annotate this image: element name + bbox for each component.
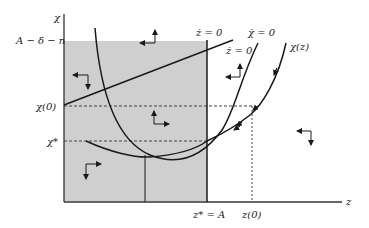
phase-arrow-right-top bbox=[226, 64, 240, 77]
phase-arrow-far-right bbox=[297, 131, 311, 145]
x-tick-z0: z(0) bbox=[241, 209, 262, 220]
phase-diagram: χ z A − δ − n χ(0) χ* z* = A z(0) ż = 0 … bbox=[0, 0, 369, 228]
y-axis-label: χ bbox=[53, 12, 61, 23]
x-axis-label: z bbox=[345, 196, 352, 207]
label-saddle-path: χ(z) bbox=[289, 41, 309, 52]
y-tick-upper-bound: A − δ − n bbox=[15, 35, 65, 46]
label-z-dot-zero-upward: ż = 0 bbox=[225, 45, 253, 56]
label-chi-dot-zero: χ̇ = 0 bbox=[247, 27, 276, 38]
shaded-region bbox=[64, 41, 207, 201]
y-tick-chi0: χ(0) bbox=[35, 101, 56, 112]
label-z-dot-zero-vertical: ż = 0 bbox=[195, 27, 223, 38]
y-tick-chistar: χ* bbox=[46, 136, 58, 147]
x-tick-zstar: z* = A bbox=[192, 209, 225, 220]
saddle-path bbox=[207, 43, 286, 141]
